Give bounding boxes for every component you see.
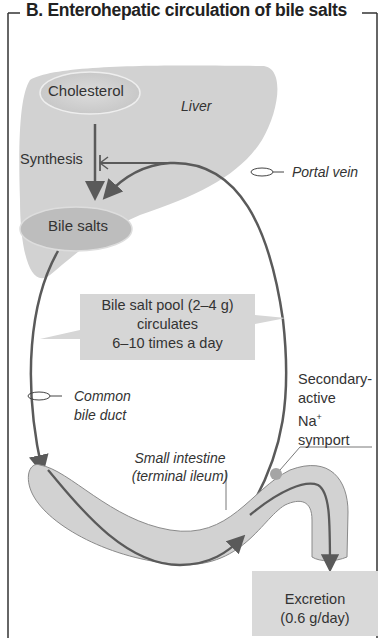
excretion-line-1: Excretion <box>252 590 378 609</box>
small-intestine-label: Small intestine (terminal ileum) <box>120 449 240 485</box>
synthesis-label: Synthesis <box>20 151 83 167</box>
common-bile-duct-label: Common bile duct <box>74 387 131 425</box>
pool-line-3: 6–10 times a day <box>80 334 255 353</box>
symport-line-2: active <box>298 389 372 408</box>
pool-line-1: Bile salt pool (2–4 g) <box>80 296 255 315</box>
small-intestine-line-1: Small intestine <box>120 449 240 467</box>
pool-line-2: circulates <box>80 315 255 334</box>
liver-label: Liver <box>181 98 211 114</box>
excretion-line-2: (0.6 g/day) <box>252 609 378 628</box>
common-bile-duct-line-1: Common <box>74 387 131 406</box>
symport-line-4: symport <box>298 431 372 450</box>
symport-label: Secondary- active Na+ symport <box>298 370 372 450</box>
sodium-charge: + <box>317 412 322 422</box>
excretion-label: Excretion (0.6 g/day) <box>252 590 378 628</box>
symport-line-3: Na+ <box>298 408 372 431</box>
sodium-text: Na <box>298 413 317 429</box>
cholesterol-label: Cholesterol <box>48 82 124 99</box>
common-bile-duct-path <box>31 251 58 470</box>
bile-salts-label: Bile salts <box>48 217 108 234</box>
bile-salt-pool-text: Bile salt pool (2–4 g) circulates 6–10 t… <box>80 296 255 353</box>
portal-vein-label: Portal vein <box>292 164 358 180</box>
figure-title: B. Enterohepatic circulation of bile sal… <box>26 0 347 21</box>
small-intestine-line-2: (terminal ileum) <box>120 467 240 485</box>
common-bile-duct-line-2: bile duct <box>74 406 131 425</box>
symport-line-1: Secondary- <box>298 370 372 389</box>
